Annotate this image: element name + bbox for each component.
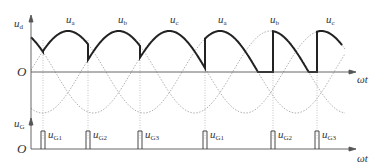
phase-label: ub xyxy=(270,14,279,27)
pulse-label: uG2 xyxy=(93,129,107,142)
pulse-label: uG3 xyxy=(322,129,336,142)
firing-angle-lines xyxy=(43,40,317,140)
output-voltage-wave xyxy=(31,31,342,72)
upper-y-axis-label: ud xyxy=(14,18,23,31)
lower-axes xyxy=(29,118,356,151)
phase-label: ua xyxy=(66,14,75,27)
pulse-label: uG2 xyxy=(278,129,292,142)
upper-origin-label: O xyxy=(17,65,26,78)
waveform-diagram xyxy=(0,0,381,168)
lower-origin-label: O xyxy=(17,142,26,155)
lower-y-axis-label: uG xyxy=(14,118,25,131)
phase-label: uc xyxy=(326,14,335,27)
pulse-label: uG3 xyxy=(145,129,159,142)
phase-label: ub xyxy=(118,14,127,27)
pulse-label: uG1 xyxy=(210,129,224,142)
phase-label: uc xyxy=(170,14,179,27)
phase-label: ua xyxy=(218,14,227,27)
upper-x-axis-label: ωt xyxy=(357,74,368,85)
pulse-label: uG1 xyxy=(48,129,62,142)
lower-x-axis-label: ωt xyxy=(357,153,368,164)
